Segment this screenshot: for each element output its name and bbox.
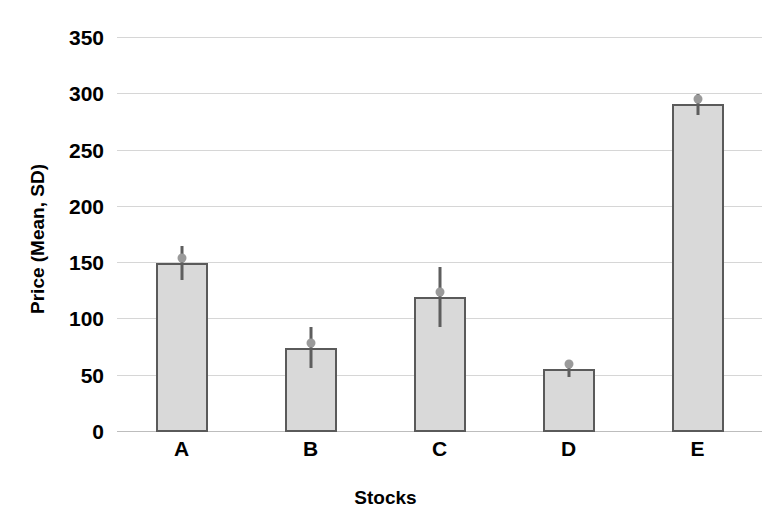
bar-slot: [246, 38, 375, 432]
error-bar-marker: [177, 254, 186, 263]
y-tick-label: 350: [69, 26, 104, 50]
bar-slot: [117, 38, 246, 432]
bar-slot: [375, 38, 504, 432]
error-bar: [180, 246, 183, 280]
y-tick-label: 0: [92, 420, 104, 444]
error-bar: [309, 327, 312, 368]
bar-slot: [633, 38, 762, 432]
y-axis-tick-labels: 050100150200250300350: [38, 38, 104, 432]
error-bar-marker: [564, 359, 573, 368]
y-tick-label: 200: [69, 195, 104, 219]
error-bar-marker: [306, 338, 315, 347]
plot-area: [117, 38, 762, 432]
x-axis-title: Stocks: [0, 487, 771, 509]
bar-slot: [504, 38, 633, 432]
y-tick-label: 300: [69, 82, 104, 106]
x-tick-label: E: [690, 437, 704, 461]
y-tick-label: 50: [81, 364, 104, 388]
bar: [672, 104, 724, 432]
y-tick-label: 250: [69, 139, 104, 163]
error-bar-marker: [435, 287, 444, 296]
error-bar-marker: [693, 95, 702, 104]
x-axis-tick-labels: ABCDE: [117, 437, 762, 467]
bar: [543, 369, 595, 432]
x-tick-label: A: [174, 437, 189, 461]
y-tick-label: 100: [69, 307, 104, 331]
x-tick-label: B: [303, 437, 318, 461]
bar: [156, 263, 208, 432]
x-tick-label: C: [432, 437, 447, 461]
x-tick-label: D: [561, 437, 576, 461]
bar-chart: Price (Mean, SD) 050100150200250300350 A…: [0, 0, 771, 531]
y-tick-label: 150: [69, 251, 104, 275]
error-bar: [438, 267, 441, 328]
